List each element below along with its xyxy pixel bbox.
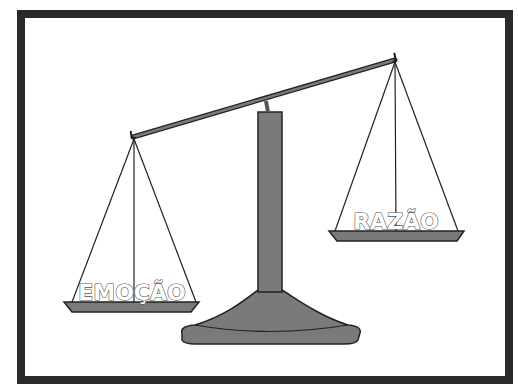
label-emocao: EMOÇÃO — [78, 280, 186, 305]
balance-scale-illustration: EMOÇÃO RAZÃO — [0, 0, 518, 391]
label-razao: RAZÃO — [353, 209, 439, 234]
scale-base — [182, 290, 360, 344]
scale-column — [258, 112, 282, 292]
right-pan: RAZÃO — [329, 62, 464, 241]
pivot — [266, 101, 268, 112]
left-pan: EMOÇÃO — [64, 139, 199, 312]
